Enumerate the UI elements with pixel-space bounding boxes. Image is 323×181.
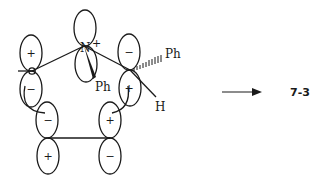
sign-plus: +	[26, 47, 35, 60]
sign-minus: −	[124, 46, 133, 59]
atom-label-n: N	[80, 41, 91, 55]
bond-c-h	[130, 70, 156, 97]
sign-minus: −	[43, 114, 52, 127]
arrow-head-icon	[252, 88, 262, 96]
reaction-arrow	[222, 88, 262, 96]
substituent-ph-c: Ph	[165, 47, 181, 61]
orbital-diagram: + − N + Ph − + Ph H	[0, 0, 323, 181]
orbital-c-right: − + Ph H	[118, 34, 181, 114]
sign-minus: −	[105, 150, 114, 163]
substituent-ph-n: Ph	[95, 80, 111, 94]
sign-plus: +	[124, 82, 133, 95]
substituent-h: H	[155, 100, 165, 114]
sign-plus: +	[43, 150, 52, 163]
bond-c1-n	[32, 46, 84, 71]
product-label: 7-3	[290, 86, 310, 99]
sign-plus: +	[105, 114, 114, 127]
orbital-n-top: N + Ph	[74, 10, 111, 94]
sign-minus: −	[26, 83, 35, 96]
charge-plus: +	[92, 37, 101, 50]
